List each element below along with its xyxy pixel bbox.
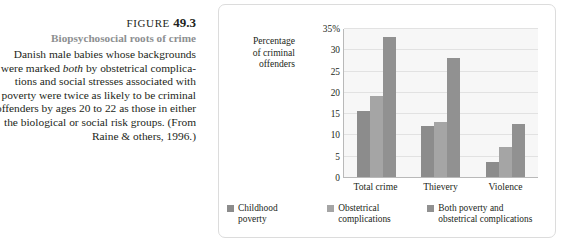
y-axis-tick-label: 30 [314, 45, 340, 55]
legend-label-line: poverty [238, 214, 278, 225]
chart-legend: ChildhoodpovertyObstetricalcomplications… [227, 203, 549, 226]
bar-group [345, 29, 407, 177]
bar-group [410, 29, 472, 177]
bar [499, 147, 512, 177]
bar [370, 96, 383, 177]
figure-heading: FIGURE 49.3 [0, 16, 198, 30]
x-axis-label: Violence [475, 181, 537, 192]
x-axis-label: Total crime [345, 181, 407, 192]
figure-caption: FIGURE 49.3 Biopsychosocial roots of cri… [0, 16, 198, 143]
y-axis-tick-label: 35% [314, 24, 340, 34]
caption-line: poverty were twice as likely to be crimi… [0, 89, 196, 103]
caption-line: tions and social stresses associated wit… [0, 75, 196, 89]
bar [447, 58, 460, 177]
bar-group [475, 29, 537, 177]
caption-line: Raine & others, 1996.) [0, 130, 196, 144]
y-axis-title-line: offenders [223, 58, 295, 70]
legend-label-line: Childhood [238, 203, 278, 214]
x-axis-label: Thievery [410, 181, 472, 192]
plot-area [343, 29, 538, 178]
legend-item: Both poverty andobstetrical complication… [427, 203, 549, 226]
caption-line: offenders by ages 20 to 22 as those in e… [0, 102, 196, 116]
bar [512, 124, 525, 177]
figure-container: FIGURE 49.3 Biopsychosocial roots of cri… [0, 0, 569, 242]
y-axis-tick-label: 10 [314, 130, 340, 140]
legend-label-line: obstetrical complications [438, 214, 532, 225]
caption-line: Danish male babies whose backgrounds [0, 48, 196, 62]
bar [421, 126, 434, 177]
legend-label: Obstetricalcomplications [338, 203, 391, 226]
legend-label: Both poverty andobstetrical complication… [438, 203, 532, 226]
caption-emphasis: both [63, 62, 83, 74]
legend-label-line: Obstetrical [338, 203, 391, 214]
y-axis-title-line: of criminal [223, 47, 295, 59]
y-axis-tick-label: 5 [314, 152, 340, 162]
caption-line: were marked both by obstetrical complica… [0, 62, 196, 76]
figure-number-label: 49.3 [173, 15, 196, 30]
legend-swatch [327, 205, 334, 212]
legend-label: Childhoodpoverty [238, 203, 278, 226]
figure-subtitle: Biopsychosocial roots of crime [0, 31, 198, 46]
legend-label-line: Both poverty and [438, 203, 532, 214]
y-axis-tick-label: 20 [314, 88, 340, 98]
chart-panel: Percentageof criminaloffenders 051015202… [218, 4, 556, 238]
legend-item: Obstetricalcomplications [327, 203, 427, 226]
y-axis-ticks: 05101520253035% [314, 29, 340, 178]
y-axis-tick-label: 0 [314, 173, 340, 183]
chart-area: 05101520253035% Total crimeThieveryViole… [314, 29, 538, 178]
bar [486, 162, 499, 177]
y-axis-title-line: Percentage [223, 35, 295, 47]
legend-swatch [227, 205, 234, 212]
legend-item: Childhoodpoverty [227, 203, 327, 226]
bar [434, 122, 447, 177]
x-axis-labels: Total crimeThieveryViolence [343, 181, 538, 192]
figure-prefix-label: FIGURE [127, 17, 170, 29]
figure-caption-body: Danish male babies whose backgroundswere… [0, 48, 198, 143]
y-axis-title: Percentageof criminaloffenders [223, 35, 295, 70]
legend-label-line: complications [338, 214, 391, 225]
caption-line: the biological or social risk groups. (F… [0, 116, 196, 130]
y-axis-tick-label: 15 [314, 109, 340, 119]
bar [357, 111, 370, 177]
y-axis-tick-label: 25 [314, 67, 340, 77]
bar-groups [344, 29, 538, 177]
bar [383, 37, 396, 177]
legend-swatch [427, 205, 434, 212]
